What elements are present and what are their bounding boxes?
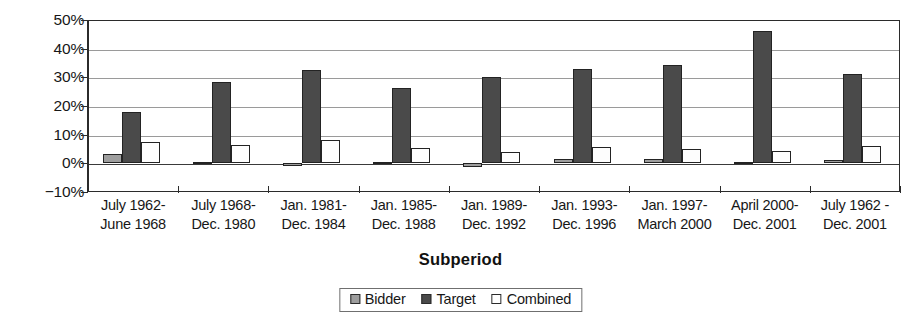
category-label-line: Dec. 2001 [810,215,900,234]
category-label-line: Dec. 1992 [449,215,539,234]
y-axis-tick-mark [81,192,88,193]
bar-combined [411,148,430,163]
bar-bidder [193,162,212,164]
bar-target [392,88,411,163]
y-axis-tick-label: 10% [10,127,84,143]
bar-target [573,69,592,163]
bar-bidder [283,163,302,166]
bar-combined [772,151,791,163]
category-label-line: March 2000 [629,215,719,234]
bar-target [302,70,321,163]
legend-item-label: Bidder [365,292,406,307]
y-axis-tick-label: 20% [10,98,84,114]
bar-group [178,20,268,192]
category-label-line: Jan. 1985- [359,196,449,215]
bidder-swatch-icon [350,294,360,304]
target-swatch-icon [422,294,432,304]
bar-target [753,31,772,163]
category-label-line: July 1968- [178,196,268,215]
bar-target [843,74,862,163]
bar-combined [592,147,611,163]
category-label-line: July 1962 - [810,196,900,215]
legend-item-label: Combined [507,292,572,307]
bar-bidder [644,159,663,163]
legend-item-label: Target [437,292,476,307]
bar-combined [141,142,160,163]
y-axis-tick-mark [81,77,88,78]
chart-legend: BidderTargetCombined [339,288,582,312]
bar-bidder [554,159,573,163]
bar-bidder [463,163,482,167]
category-label-line: June 1968 [88,215,178,234]
x-axis-category-labels: July 1962-June 1968July 1968-Dec. 1980Ja… [88,196,900,248]
bar-chart-figure: 50%40%30%20%10%0%−10% July 1962-June 196… [0,0,921,331]
bar-combined [682,149,701,163]
legend-item[interactable]: Combined [492,292,572,307]
bar-target [122,112,141,164]
y-axis-tick-label: 0% [10,156,84,172]
x-axis-category-label: Jan. 1997-March 2000 [629,196,719,234]
x-axis-category-label: Jan. 1989-Dec. 1992 [449,196,539,234]
x-axis-category-label: July 1962-June 1968 [88,196,178,234]
bar-combined [321,140,340,163]
bar-group [268,20,358,192]
y-axis-tick-label: −10% [10,184,84,200]
category-label-line: July 1962- [88,196,178,215]
x-axis-category-label: Jan. 1981-Dec. 1984 [268,196,358,234]
y-axis-tick-mark [81,49,88,50]
category-label-line: Dec. 1980 [178,215,268,234]
bar-target [482,77,501,163]
x-axis-category-label: July 1962 -Dec. 2001 [810,196,900,234]
scan-edge [0,327,921,331]
y-axis-tick-label: 30% [10,70,84,86]
x-axis-category-label: Jan. 1993-Dec. 1996 [539,196,629,234]
bar-target [212,82,231,163]
y-axis-tick-label: 50% [10,12,84,28]
x-axis-title: Subperiod [0,250,921,269]
y-axis-tick-mark [81,106,88,107]
bar-combined [501,152,520,163]
category-label-line: April 2000- [720,196,810,215]
bar-group [88,20,178,192]
legend-item[interactable]: Target [422,292,476,307]
x-axis-category-label: April 2000-Dec. 2001 [720,196,810,234]
category-label-line: Dec. 1984 [268,215,358,234]
bar-group [629,20,719,192]
bar-bidder [373,162,392,164]
category-label-line: Dec. 1988 [359,215,449,234]
bar-group [359,20,449,192]
bar-group [539,20,629,192]
category-label-line: Jan. 1997- [629,196,719,215]
x-axis-category-label: July 1968-Dec. 1980 [178,196,268,234]
y-axis-tick-mark [81,20,88,21]
bar-group [720,20,810,192]
x-axis-category-label: Jan. 1985-Dec. 1988 [359,196,449,234]
bar-group [449,20,539,192]
bar-group [810,20,900,192]
bar-combined [862,146,881,164]
combined-swatch-icon [492,294,502,304]
bar-combined [231,145,250,164]
category-label-line: Jan. 1981- [268,196,358,215]
category-label-line: Jan. 1993- [539,196,629,215]
category-label-line: Dec. 2001 [720,215,810,234]
y-axis-labels: 50%40%30%20%10%0%−10% [0,0,84,331]
category-label-line: Dec. 1996 [539,215,629,234]
y-axis-tick-mark [81,163,88,164]
bar-bidder [734,162,753,164]
y-axis-tick-label: 40% [10,41,84,57]
bar-target [663,65,682,163]
legend-item[interactable]: Bidder [350,292,406,307]
x-axis-tick-mark [900,186,901,193]
category-label-line: Jan. 1989- [449,196,539,215]
bar-bidder [824,160,843,163]
bar-groups [88,20,900,192]
y-axis-tick-mark [81,135,88,136]
bar-bidder [103,154,122,163]
